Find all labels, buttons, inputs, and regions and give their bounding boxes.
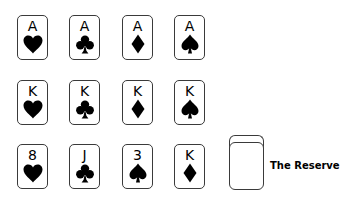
heart-suit-icon [18, 99, 47, 119]
diamond-suit-icon [175, 163, 204, 183]
card-8-of-hearts[interactable]: 8 [17, 144, 48, 189]
diamond-suit-icon [123, 34, 152, 54]
spade-suit-icon [175, 99, 204, 119]
card-rank: J [70, 148, 99, 162]
card-a-of-hearts[interactable]: A [17, 15, 48, 60]
card-k-of-hearts[interactable]: K [17, 80, 48, 125]
card-rank: K [123, 84, 152, 98]
card-rank: K [175, 148, 204, 162]
card-3-of-spades[interactable]: 3 [122, 144, 153, 189]
card-k-of-diamonds[interactable]: K [122, 80, 153, 125]
card-k-of-spades[interactable]: K [174, 80, 205, 125]
card-a-of-clubs[interactable]: A [69, 15, 100, 60]
card-rank: K [18, 84, 47, 98]
card-k-of-diamonds[interactable]: K [174, 144, 205, 189]
heart-suit-icon [18, 163, 47, 183]
card-rank: A [70, 19, 99, 33]
card-rank: 3 [123, 148, 152, 162]
diamond-suit-icon [123, 99, 152, 119]
reserve-pile[interactable] [229, 135, 264, 190]
card-a-of-spades[interactable]: A [174, 15, 205, 60]
club-suit-icon [70, 34, 99, 54]
heart-suit-icon [18, 34, 47, 54]
club-suit-icon [70, 163, 99, 183]
card-rank: 8 [18, 148, 47, 162]
card-rank: A [18, 19, 47, 33]
card-rank: A [175, 19, 204, 33]
reserve-pile-top-card[interactable] [229, 142, 264, 190]
card-a-of-diamonds[interactable]: A [122, 15, 153, 60]
club-suit-icon [70, 99, 99, 119]
spade-suit-icon [123, 163, 152, 183]
card-j-of-clubs[interactable]: J [69, 144, 100, 189]
card-rank: K [175, 84, 204, 98]
card-rank: A [123, 19, 152, 33]
game-board: AAAAKKKK8J3K The Reserve [0, 0, 343, 200]
reserve-label: The Reserve [270, 160, 340, 172]
card-rank: K [70, 84, 99, 98]
card-k-of-clubs[interactable]: K [69, 80, 100, 125]
spade-suit-icon [175, 34, 204, 54]
